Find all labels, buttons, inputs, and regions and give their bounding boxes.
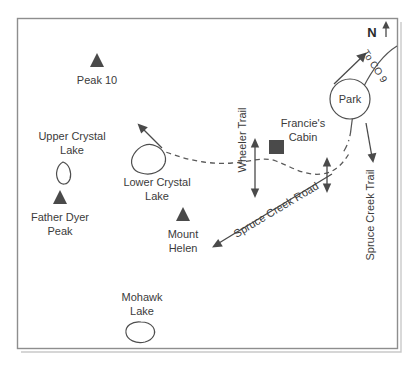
lake-mohawk[interactable]: Mohawk Lake xyxy=(122,291,163,343)
peak-mount-helen[interactable]: Mount Helen xyxy=(168,207,199,254)
route-spruce-creek-trail[interactable]: Spruce Creek Trail xyxy=(364,123,376,261)
place-label-park: Park xyxy=(339,93,362,105)
compass-rose: N xyxy=(367,21,389,40)
peak-triangle-icon xyxy=(53,190,67,204)
map-frame-shadow xyxy=(21,22,401,352)
cabin-marker-icon xyxy=(269,140,284,154)
trail-map: N To CO 9 Park Sp xyxy=(0,0,414,369)
spruce-creek-trail-direction-arrow xyxy=(366,123,376,163)
peak-triangle-icon xyxy=(90,53,104,67)
lake-outline-upper-crystal xyxy=(57,162,71,184)
route-label-spruce-creek-trail: Spruce Creek Trail xyxy=(364,169,376,260)
lake-upper-crystal[interactable]: Upper Crystal Lake xyxy=(38,130,105,184)
lake-label-upper-crystal-line2: Lake xyxy=(60,144,84,156)
place-label-francies-cabin-line1: Francie's xyxy=(281,117,326,129)
wheeler-trail-double-arrow xyxy=(251,138,259,198)
map-frame-border xyxy=(18,19,398,349)
peak-label-father-dyer-line2: Peak xyxy=(47,225,73,237)
route-wheeler-trail[interactable]: Wheeler Trail xyxy=(236,108,259,198)
lake-label-upper-crystal-line1: Upper Crystal xyxy=(38,130,105,142)
dashed-trail-main xyxy=(158,149,350,174)
lake-label-lower-crystal-line1: Lower Crystal xyxy=(123,176,190,188)
map-canvas: N To CO 9 Park Sp xyxy=(0,0,414,369)
dashdot-trail-park-link xyxy=(342,129,351,154)
lake-outline-lower-crystal xyxy=(132,144,166,174)
route-label-spruce-creek-road: Spruce Creek Road xyxy=(231,180,320,240)
place-park[interactable]: Park xyxy=(330,79,370,119)
peak-father-dyer[interactable]: Father Dyer Peak xyxy=(31,190,89,237)
peak-label-mount-helen-line1: Mount xyxy=(168,228,199,240)
route-label-to-co9: To CO 9 xyxy=(360,48,389,85)
lake-label-mohawk-line1: Mohawk xyxy=(122,291,163,303)
compass-north-label: N xyxy=(367,25,376,40)
peak-peak-10[interactable]: Peak 10 xyxy=(77,53,117,86)
place-francies-cabin[interactable]: Francie's Cabin xyxy=(269,117,326,154)
peak-label-mount-helen-line2: Helen xyxy=(169,242,198,254)
map-frame xyxy=(18,19,402,353)
lake-label-lower-crystal-line2: Lake xyxy=(145,190,169,202)
place-label-francies-cabin-line2: Cabin xyxy=(289,131,318,143)
peak-label-peak-10: Peak 10 xyxy=(77,74,117,86)
lake-lower-crystal[interactable]: Lower Crystal Lake xyxy=(123,144,190,202)
route-spruce-creek-road[interactable]: Spruce Creek Road xyxy=(212,174,332,248)
route-label-wheeler-trail: Wheeler Trail xyxy=(236,108,248,173)
peak-triangle-icon xyxy=(176,207,190,221)
peak-label-father-dyer-line1: Father Dyer xyxy=(31,211,89,223)
lake-label-mohawk-line2: Lake xyxy=(130,305,154,317)
lake-outline-mohawk xyxy=(126,322,155,343)
arrow-up-icon xyxy=(382,21,389,37)
